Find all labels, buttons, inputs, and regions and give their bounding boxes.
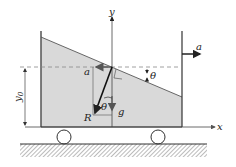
fluid-region: [41, 37, 182, 127]
fluid-tank-diagram: y x a a g R θ θ y0: [0, 0, 236, 167]
inertial-acceleration-label: a: [84, 66, 90, 77]
x-axis-label: x: [217, 121, 223, 132]
y-axis-label: y: [108, 6, 115, 17]
gravity-label: g: [118, 106, 124, 117]
wheel-right: [151, 130, 165, 144]
surface-angle-label: θ: [150, 70, 156, 81]
ground-hatch: [20, 144, 207, 157]
vector-angle-label: θ: [101, 101, 107, 112]
acceleration-label: a: [196, 41, 202, 52]
depth-label: y0: [12, 91, 25, 103]
wheel-left: [57, 130, 71, 144]
resultant-label: R: [83, 112, 92, 123]
